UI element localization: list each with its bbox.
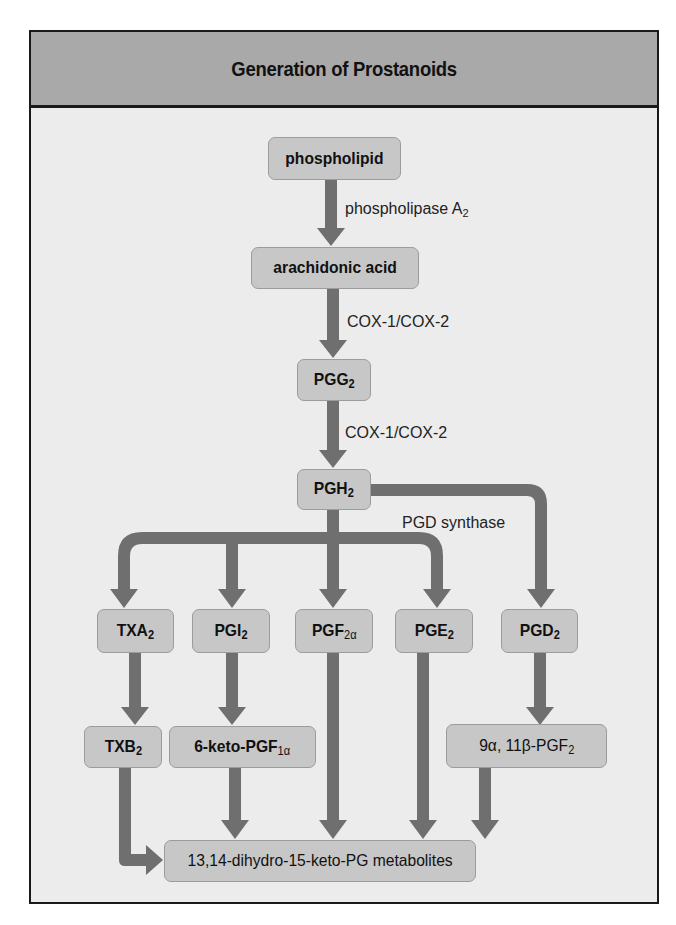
node-subscript: 2	[348, 377, 354, 391]
node-label: PGF	[312, 621, 344, 640]
enzyme-subscript: 2	[462, 207, 468, 219]
node-arachidonic-acid: arachidonic acid	[251, 247, 419, 289]
node-subscript: 2	[447, 628, 453, 642]
node-subscript: 2	[148, 628, 154, 642]
enzyme-label-pgd-synthase: PGD synthase	[402, 514, 505, 532]
node-label: TXA	[117, 621, 148, 640]
node-label: 9α, 11β-PGF	[479, 736, 568, 755]
arrowhead-icon	[218, 707, 246, 725]
node-label: 6-keto-PGF	[195, 737, 278, 756]
node-subscript: 2	[553, 628, 559, 642]
txb2-elbow	[119, 768, 147, 866]
node-phospholipid: phospholipid	[268, 137, 401, 180]
arrowhead-icon	[319, 820, 347, 839]
arrowhead-icon	[317, 228, 345, 246]
arrowhead-icon	[527, 589, 555, 608]
enzyme-text: phospholipase A	[345, 200, 462, 217]
node-pgh2: PGH2	[297, 469, 371, 510]
enzyme-label-cox-2: COX-1/COX-2	[345, 424, 447, 442]
node-label: arachidonic acid	[273, 258, 396, 277]
arrowhead-icon	[110, 589, 138, 608]
node-pgd2: PGD2	[501, 609, 578, 653]
node-9a-11b-pgf2: 9α, 11β-PGF2	[446, 724, 607, 768]
arrowhead-icon	[409, 820, 437, 839]
node-label: PGI	[214, 621, 241, 640]
node-subscript: 2	[348, 486, 354, 500]
node-subscript: 2α	[344, 628, 357, 642]
node-txb2: TXB2	[84, 726, 162, 768]
node-subscript: 2	[241, 628, 247, 642]
node-label: phospholipid	[285, 149, 383, 168]
node-subscript: 2	[568, 743, 574, 757]
arrowhead-icon	[221, 820, 249, 839]
node-label: 13,14-dihydro-15-keto-PG metabolites	[187, 851, 452, 870]
enzyme-label-phospholipase-a2: phospholipase A2	[345, 200, 469, 219]
node-label: PGE	[414, 621, 447, 640]
node-6-keto-pgf1a: 6-keto-PGF1α	[169, 726, 316, 768]
node-subscript: 2	[136, 744, 142, 758]
node-pgf2a: PGF2α	[295, 609, 373, 653]
enzyme-label-cox-1: COX-1/COX-2	[347, 313, 449, 331]
arrowhead-icon	[146, 845, 163, 875]
arrowhead-icon	[471, 820, 499, 839]
arrowhead-icon	[319, 340, 347, 358]
arrowhead-icon	[121, 707, 149, 725]
node-label: PGD	[519, 621, 553, 640]
branch-bar	[118, 532, 443, 591]
node-label: TXB	[104, 737, 135, 756]
arrowhead-icon	[218, 589, 246, 608]
arrowhead-icon	[319, 450, 347, 468]
node-metabolites: 13,14-dihydro-15-keto-PG metabolites	[164, 840, 476, 882]
arrowhead-icon	[423, 589, 451, 608]
node-subscript: 1α	[278, 744, 291, 758]
node-label: PGG	[314, 370, 349, 389]
arrowhead-icon	[319, 589, 347, 608]
node-pge2: PGE2	[395, 609, 473, 653]
node-pgg2: PGG2	[297, 359, 371, 401]
node-pgi2: PGI2	[192, 609, 270, 653]
node-label: PGH	[314, 479, 348, 498]
node-txa2: TXA2	[97, 609, 174, 653]
arrowhead-icon	[526, 707, 554, 725]
arrow-shaft-pla2	[325, 180, 337, 230]
